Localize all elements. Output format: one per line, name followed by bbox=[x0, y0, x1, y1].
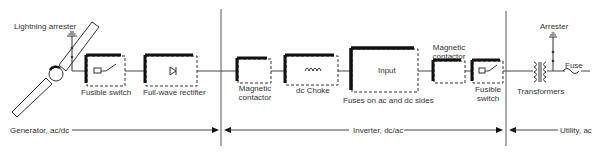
magnetic-contactor-2-label-line2: contactor bbox=[428, 52, 470, 61]
lightning-arrester-label: Lightning arrester bbox=[14, 22, 76, 31]
utility-section-label: Utility, ac bbox=[560, 126, 592, 135]
transformer-icon bbox=[533, 60, 547, 84]
arrester-label: Arrester bbox=[540, 22, 568, 31]
fusible-switch-2-label-line2: switch bbox=[470, 94, 506, 103]
fusible-switch-2-label: Fusible switch bbox=[470, 85, 506, 103]
fusible-switch-2-block bbox=[472, 60, 503, 83]
full-wave-rectifier-label: Full-wave rectifier bbox=[143, 88, 206, 97]
transformers-label: Transformers bbox=[517, 87, 564, 96]
fuses-label: Fuses on ac and dc sides bbox=[343, 96, 434, 105]
input-label: Input bbox=[378, 66, 396, 75]
magnetic-contactor-1-label-line1: Magnetic bbox=[232, 84, 278, 93]
dc-choke-block bbox=[285, 55, 338, 85]
full-wave-rectifier-block bbox=[145, 55, 197, 86]
utility-arrester-icon bbox=[549, 33, 557, 71]
magnetic-contactor-2-block bbox=[433, 60, 465, 83]
generator-range-arrow bbox=[72, 127, 219, 133]
dc-choke-label: dc Choke bbox=[296, 86, 330, 95]
magnetic-contactor-1-block bbox=[237, 58, 271, 83]
fuse-label: Fuse bbox=[565, 61, 583, 70]
magnetic-contactor-2-label-line1: Magnetic bbox=[428, 43, 470, 52]
power-system-diagram: Lightning arrester Fusible switch Full-w… bbox=[0, 0, 605, 155]
magnetic-contactor-1-label: Magnetic contactor bbox=[232, 84, 278, 102]
fusible-switch-2-label-line1: Fusible bbox=[470, 85, 506, 94]
utility-range-arrow bbox=[509, 127, 558, 133]
magnetic-contactor-2-label: Magnetic contactor bbox=[428, 43, 470, 61]
magnetic-contactor-1-label-line2: contactor bbox=[232, 93, 278, 102]
fusible-switch-1-label: Fusible switch bbox=[81, 88, 131, 97]
diagram-canvas bbox=[0, 0, 605, 155]
inverter-section-label: Inverter, dc/ac bbox=[353, 126, 403, 135]
generator-section-label: Generator, ac/dc bbox=[10, 126, 69, 135]
fusible-switch-1-block bbox=[86, 55, 125, 86]
